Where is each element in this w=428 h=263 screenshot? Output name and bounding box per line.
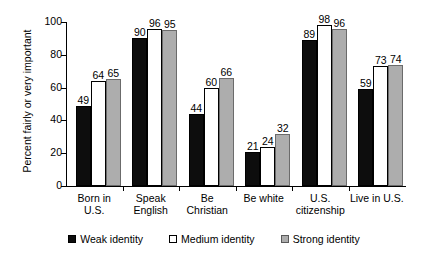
y-axis-title: Percent fairly or very important: [18, 6, 36, 196]
bar: 44: [189, 114, 204, 186]
bar: 73: [373, 66, 388, 186]
bar: 32: [275, 134, 290, 186]
bar-value-label: 74: [390, 54, 402, 65]
legend-item: Strong identity: [281, 233, 360, 245]
y-tick-label: 0: [56, 179, 62, 191]
legend-item: Weak identity: [68, 233, 143, 245]
bar-value-label: 32: [277, 123, 289, 134]
bar: 74: [388, 65, 403, 186]
legend-label: Strong identity: [293, 233, 360, 245]
bar-value-label: 89: [303, 29, 315, 40]
bar-value-label: 95: [164, 19, 176, 30]
x-category-label: U.S.citizenship: [292, 192, 349, 216]
x-category-label: Be white: [236, 192, 293, 204]
bar-value-label: 90: [134, 27, 146, 38]
x-category-label-line: citizenship: [292, 204, 349, 216]
bar: 24: [260, 147, 275, 186]
bar: 49: [76, 106, 91, 186]
legend-swatch-icon: [281, 235, 289, 243]
x-tick-mark: [123, 186, 124, 191]
chart-legend: Weak identityMedium identityStrong ident…: [0, 233, 428, 245]
x-category-label-line: U.S.: [292, 192, 349, 204]
x-category-label: Live in U.S.: [349, 192, 406, 204]
plot-area: 020406080100 496465909695446066212432899…: [66, 22, 405, 186]
x-category-label-line: Be Christian: [179, 192, 236, 216]
bar: 96: [147, 29, 162, 186]
x-category-label-line: Born in U.S.: [66, 192, 123, 216]
y-axis-line: [66, 22, 67, 186]
y-tick-label: 80: [50, 48, 62, 60]
x-tick-mark: [179, 186, 180, 191]
y-tick-label: 40: [50, 113, 62, 125]
bar: 96: [332, 29, 347, 186]
legend-swatch-icon: [68, 235, 76, 243]
y-tick-label: 20: [50, 146, 62, 158]
bar: 95: [162, 30, 177, 186]
bar-value-label: 96: [333, 18, 345, 29]
x-category-label-line: Live in U.S.: [349, 192, 406, 204]
bar-value-label: 65: [107, 68, 119, 79]
bar-value-label: 98: [318, 14, 330, 25]
bar: 98: [317, 25, 332, 186]
x-category-label: Born in U.S.: [66, 192, 123, 216]
x-category-label-line: Speak: [123, 192, 180, 204]
x-category-label-line: English: [123, 204, 180, 216]
x-category-label: Be Christian: [179, 192, 236, 216]
x-category-label: SpeakEnglish: [123, 192, 180, 216]
bar-value-label: 73: [375, 55, 387, 66]
bar: 66: [219, 78, 234, 186]
bar-value-label: 96: [149, 18, 161, 29]
bar-value-label: 44: [190, 103, 202, 114]
x-tick-mark: [349, 186, 350, 191]
legend-label: Weak identity: [80, 233, 143, 245]
y-tick-label: 60: [50, 81, 62, 93]
x-tick-mark: [236, 186, 237, 191]
legend-item: Medium identity: [169, 233, 255, 245]
y-tick-label: 100: [44, 15, 62, 27]
bar: 21: [245, 152, 260, 186]
x-category-label-line: Be white: [236, 192, 293, 204]
bar: 89: [302, 40, 317, 186]
x-tick-mark: [292, 186, 293, 191]
bar: 90: [132, 38, 147, 186]
legend-swatch-icon: [169, 235, 177, 243]
bar: 65: [106, 79, 121, 186]
bar-value-label: 49: [77, 95, 89, 106]
bar: 59: [358, 89, 373, 186]
bar-value-label: 66: [220, 67, 232, 78]
bar: 60: [204, 88, 219, 186]
legend-label: Medium identity: [181, 233, 255, 245]
bar-value-label: 59: [360, 78, 372, 89]
bar-value-label: 60: [205, 77, 217, 88]
chart-figure: Percent fairly or very important 0204060…: [0, 0, 428, 263]
bar-value-label: 21: [247, 141, 259, 152]
bar-value-label: 64: [92, 70, 104, 81]
bar-value-label: 24: [262, 136, 274, 147]
bar: 64: [91, 81, 106, 186]
